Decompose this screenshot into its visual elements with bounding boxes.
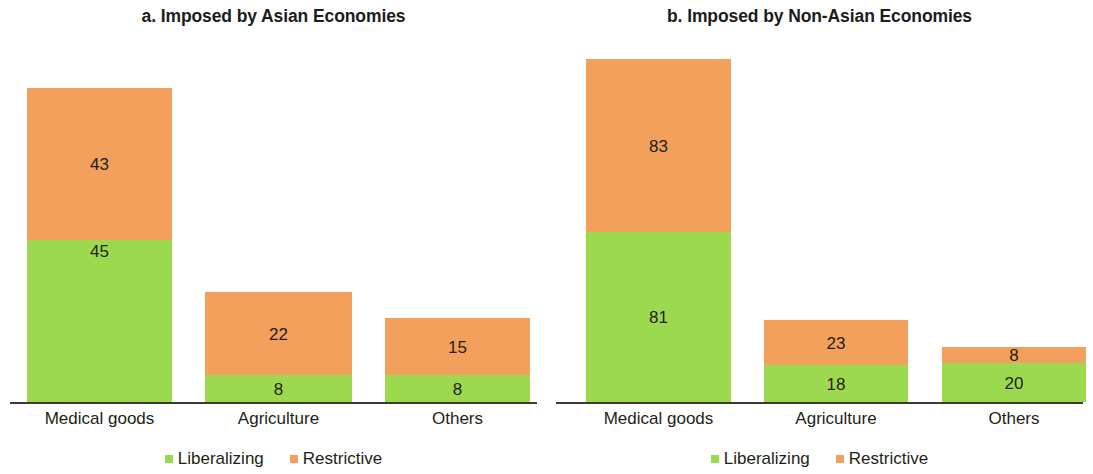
bar-a-others[interactable]: 15 8 [385,318,530,402]
panel-b-legend-item-liberalizing[interactable]: Liberalizing [711,449,810,469]
panel-b-legend-label-restrictive: Restrictive [849,449,928,469]
bar-b-medical-goods[interactable]: 83 81 [586,59,731,402]
panel-a-category-label-agriculture: Agriculture [205,409,352,429]
bar-a-others-liberalizing-value: 8 [385,380,530,397]
chart-panel-a: a. Imposed by Asian Economies 43 45 22 8 [0,0,547,474]
bar-b-medical-goods-restrictive-value: 83 [586,137,731,154]
bar-a-medical-goods-liberalizing-segment[interactable]: 45 [27,240,172,402]
bar-a-agriculture-restrictive-segment[interactable]: 22 [205,292,352,375]
legend-swatch-liberalizing-icon [711,455,719,463]
bar-a-others-liberalizing-segment[interactable]: 8 [385,375,530,402]
bar-a-agriculture[interactable]: 22 8 [205,292,352,402]
chart-panel-b: b. Imposed by Non-Asian Economies 83 81 … [546,0,1093,474]
legend-swatch-restrictive-icon [290,455,298,463]
bar-a-medical-goods-liberalizing-value: 45 [27,243,172,261]
legend-swatch-liberalizing-icon [165,455,173,463]
panel-a-legend-label-restrictive: Restrictive [303,449,382,469]
panel-b-legend: Liberalizing Restrictive [546,449,1093,469]
bar-b-medical-goods-liberalizing-segment[interactable]: 81 [586,232,731,402]
panel-a-legend: Liberalizing Restrictive [0,449,547,469]
panel-a-legend-item-liberalizing[interactable]: Liberalizing [165,449,264,469]
bar-b-agriculture[interactable]: 23 18 [764,320,908,402]
panel-a-category-label-medical-goods: Medical goods [27,409,172,429]
panel-b-legend-item-restrictive[interactable]: Restrictive [836,449,928,469]
bar-b-medical-goods-liberalizing-value: 81 [586,309,731,326]
bar-b-others-liberalizing-value: 20 [942,374,1086,391]
panel-b-plot-area: 83 81 23 18 8 20 [546,0,1093,474]
panel-b-category-label-others: Others [942,409,1086,429]
panel-a-category-label-others: Others [385,409,530,429]
panel-b-category-label-medical-goods: Medical goods [586,409,731,429]
panel-a-x-axis-line [10,402,537,404]
bar-a-medical-goods-restrictive-value: 43 [27,156,172,173]
panel-b-category-label-agriculture: Agriculture [764,409,908,429]
panel-b-x-axis-line [556,402,1083,404]
bar-a-agriculture-liberalizing-value: 8 [205,380,352,397]
panel-b-legend-label-liberalizing: Liberalizing [724,449,810,469]
bar-b-medical-goods-restrictive-segment[interactable]: 83 [586,59,731,232]
legend-swatch-restrictive-icon [836,455,844,463]
bar-b-others-liberalizing-segment[interactable]: 20 [942,363,1086,402]
bar-b-others-restrictive-value: 8 [942,347,1086,364]
stacked-bar-chart-figure: a. Imposed by Asian Economies 43 45 22 8 [0,0,1093,474]
panel-a-plot-area: 43 45 22 8 15 8 [0,0,547,474]
bar-b-agriculture-liberalizing-segment[interactable]: 18 [764,365,908,402]
bar-a-agriculture-liberalizing-segment[interactable]: 8 [205,375,352,402]
bar-b-others-restrictive-segment[interactable]: 8 [942,347,1086,363]
bar-a-agriculture-restrictive-value: 22 [205,325,352,342]
bar-a-medical-goods-restrictive-segment[interactable]: 43 [27,88,172,240]
bar-a-medical-goods[interactable]: 43 45 [27,88,172,402]
bar-b-agriculture-liberalizing-value: 18 [764,375,908,392]
bar-b-others[interactable]: 8 20 [942,347,1086,402]
bar-b-agriculture-restrictive-segment[interactable]: 23 [764,320,908,365]
bar-b-agriculture-restrictive-value: 23 [764,334,908,351]
bar-a-others-restrictive-value: 15 [385,338,530,355]
panel-a-legend-label-liberalizing: Liberalizing [178,449,264,469]
panel-a-legend-item-restrictive[interactable]: Restrictive [290,449,382,469]
bar-a-others-restrictive-segment[interactable]: 15 [385,318,530,375]
